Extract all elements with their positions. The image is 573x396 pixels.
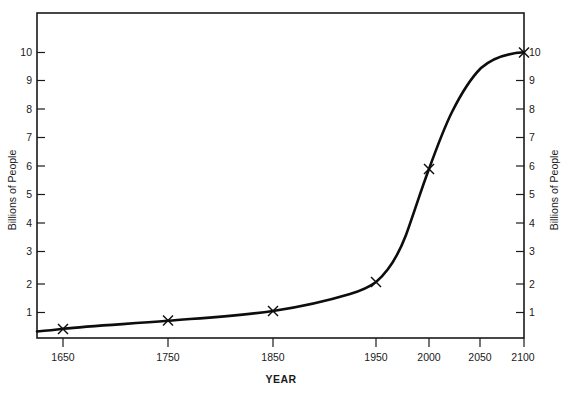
plot-frame bbox=[37, 13, 524, 338]
x-tick-label-2050: 2050 bbox=[468, 351, 492, 363]
y-tick-label-1: 1 bbox=[26, 306, 32, 318]
population-curve bbox=[37, 52, 524, 331]
x-tick-label-2000: 2000 bbox=[417, 351, 441, 363]
y-tick-label-right-3: 3 bbox=[529, 245, 535, 257]
y-tick-label-right-7: 7 bbox=[529, 131, 535, 143]
y-tick-label-right-6: 6 bbox=[529, 160, 535, 172]
chart-canvas: 10 9 8 7 6 5 4 3 2 1 10 9 8 7 6 5 4 3 bbox=[0, 0, 573, 396]
y-tick-label-right-4: 4 bbox=[529, 217, 535, 229]
data-marker-1950 bbox=[371, 277, 381, 287]
x-axis-title: YEAR bbox=[266, 373, 297, 385]
x-tick-label-1850: 1850 bbox=[261, 351, 285, 363]
y-tick-label-6: 6 bbox=[26, 160, 32, 172]
y-tick-label-7: 7 bbox=[26, 131, 32, 143]
y-axis-right-title: Billions of People bbox=[548, 150, 560, 231]
y-axis-right-ticks bbox=[516, 53, 524, 313]
y-tick-label-5: 5 bbox=[26, 188, 32, 200]
y-tick-label-8: 8 bbox=[26, 103, 32, 115]
y-tick-label-9: 9 bbox=[26, 74, 32, 86]
x-tick-label-1950: 1950 bbox=[364, 351, 388, 363]
y-tick-label-10: 10 bbox=[20, 46, 32, 58]
y-axis-left-ticks bbox=[37, 53, 45, 313]
y-tick-label-right-1: 1 bbox=[529, 306, 535, 318]
y-tick-label-right-10: 10 bbox=[529, 46, 541, 58]
y-tick-label-2: 2 bbox=[26, 278, 32, 290]
x-axis-ticks bbox=[63, 338, 524, 347]
x-tick-label-1650: 1650 bbox=[51, 351, 75, 363]
data-point-markers bbox=[58, 48, 529, 335]
y-tick-label-right-2: 2 bbox=[529, 278, 535, 290]
y-tick-label-right-9: 9 bbox=[529, 74, 535, 86]
y-tick-label-right-5: 5 bbox=[529, 188, 535, 200]
x-tick-label-2100: 2100 bbox=[511, 351, 535, 363]
y-tick-label-4: 4 bbox=[26, 217, 32, 229]
population-growth-chart: 10 9 8 7 6 5 4 3 2 1 10 9 8 7 6 5 4 3 bbox=[0, 0, 573, 396]
y-axis-left-title: Billions of People bbox=[6, 150, 18, 231]
y-tick-label-3: 3 bbox=[26, 245, 32, 257]
x-tick-label-1750: 1750 bbox=[156, 351, 180, 363]
y-tick-label-right-8: 8 bbox=[529, 103, 535, 115]
